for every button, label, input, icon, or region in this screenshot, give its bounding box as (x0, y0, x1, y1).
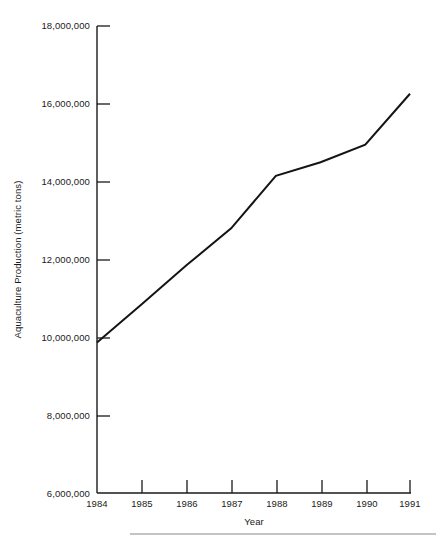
plot-area (0, 0, 436, 539)
x-tick-marks (142, 480, 410, 493)
data-series-line (97, 94, 410, 343)
y-tick-marks (97, 26, 110, 416)
chart-figure: Aquaculture Production (metric tons) 18,… (0, 0, 436, 539)
